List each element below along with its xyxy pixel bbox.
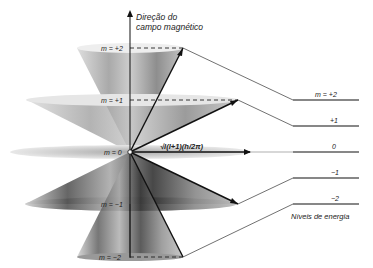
axis-label-line2: campo magnético: [136, 22, 203, 32]
magnetic-quantum-diagram: Direção do campo magnético m = +2 m = +1…: [0, 0, 373, 268]
axis-arrow-icon: [127, 10, 133, 17]
energy-levels: [293, 100, 359, 204]
energy-label-plus1: +1: [330, 117, 338, 124]
energy-label-minus2: −2: [331, 195, 339, 202]
energy-levels-caption: Níveis de energia: [291, 212, 349, 221]
origin-dot: [128, 150, 132, 154]
axis-label-line1: Direção do: [136, 12, 177, 22]
label-m-minus1: m = −1: [101, 201, 123, 208]
label-m-0: m = 0: [104, 149, 122, 156]
energy-label-plus2: m = +2: [315, 91, 337, 98]
label-m-plus2: m = +2: [101, 45, 123, 52]
vector-magnitude-label: √l(l+1)(h/2π): [160, 142, 204, 151]
energy-label-0: 0: [332, 143, 336, 150]
cone-m-plus1: [26, 94, 238, 152]
label-m-minus2: m = −2: [99, 254, 121, 261]
energy-label-minus1: −1: [331, 169, 339, 176]
label-m-plus1: m = +1: [101, 97, 123, 104]
